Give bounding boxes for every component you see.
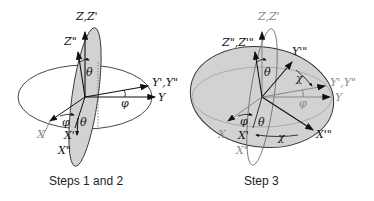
label-yp-ypp: Y',Y" [330,76,356,89]
label-x: X [217,128,227,141]
label-xp: X' [237,129,249,142]
label-chi-top: χ [295,72,304,85]
label-phi-right: φ [121,97,129,110]
label-theta-bottom: θ [80,116,87,129]
label-zpp-zppp: Z",Z'" [221,36,254,49]
label-xp: X' [63,129,75,142]
label-z-zp: Z,Z' [75,10,98,23]
label-xppp: X'" [315,128,332,141]
label-theta-bottom: θ [258,116,265,129]
label-y: Y [158,91,167,104]
label-chi-bottom: χ [277,131,286,144]
label-phi-left: φ [240,115,248,128]
label-phi-right: φ [299,97,307,110]
label-y: Y [335,91,344,104]
label-xpp: X" [235,144,249,157]
label-z-zp: Z,Z' [257,10,280,23]
label-zpp: Z" [63,35,77,48]
euler-angle-diagram: Z,Z' Z" θ Y',Y" Y φ φ θ X X' X" Steps 1 … [0,0,374,201]
caption-steps-1-2: Steps 1 and 2 [49,174,123,188]
panel-step-3: Z,Z' Z",Z'" θ Y'" χ Y',Y" Y φ φ θ X X' χ… [184,10,356,188]
label-x: X [36,128,46,141]
caption-step-3: Step 3 [244,174,279,188]
panel-steps-1-2: Z,Z' Z" θ Y',Y" Y φ φ θ X X' X" Steps 1 … [18,10,178,188]
label-xpp: X" [57,144,71,157]
label-theta-top: θ [86,66,93,79]
label-theta-top: θ [264,66,271,79]
label-yp-ypp: Y',Y" [152,76,178,89]
label-phi-left: φ [62,116,70,129]
label-yppp: Y'" [292,45,307,58]
